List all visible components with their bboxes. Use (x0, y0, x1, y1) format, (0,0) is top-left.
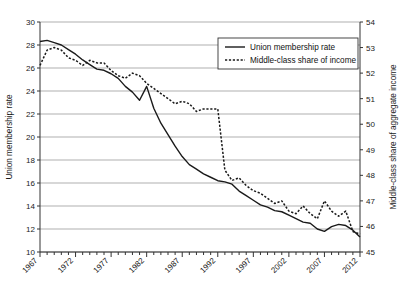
left-axis-tick-label: 16 (26, 179, 35, 188)
x-axis-tick-label: 1977 (92, 256, 111, 275)
left-axis-tick-label: 30 (26, 18, 35, 27)
x-axis-tick-label: 2012 (340, 256, 359, 275)
right-axis-tick-label: 50 (366, 120, 375, 129)
x-axis-tick-label: 1992 (198, 256, 217, 275)
x-axis-tick-label: 2007 (305, 256, 324, 275)
right-axis-tick-label: 54 (366, 18, 375, 27)
x-axis-tick-label: 1987 (163, 256, 182, 275)
dual-axis-line-chart: 1012141618202224262830454647484950515253… (0, 0, 407, 294)
left-axis-tick-label: 22 (26, 110, 35, 119)
left-axis-tick-label: 24 (26, 87, 35, 96)
right-axis-title: Middle-class share of aggregate income (389, 64, 398, 210)
right-axis-tick-label: 49 (366, 146, 375, 155)
left-axis-tick-label: 12 (26, 225, 35, 234)
left-axis-tick-label: 14 (26, 202, 35, 211)
left-axis-title: Union membership rate (5, 94, 14, 180)
legend-label-1: Union membership rate (250, 43, 336, 52)
chart-canvas: 1012141618202224262830454647484950515253… (0, 0, 407, 294)
left-axis-tick-label: 18 (26, 156, 35, 165)
right-axis-tick-label: 48 (366, 171, 375, 180)
right-axis-tick-label: 52 (366, 69, 375, 78)
legend-label-2: Middle-class share of income (250, 56, 356, 65)
right-axis-tick-label: 47 (366, 197, 375, 206)
left-axis-tick-label: 10 (26, 248, 35, 257)
left-axis-tick-label: 26 (26, 64, 35, 73)
right-axis-tick-label: 46 (366, 222, 375, 231)
right-axis-tick-label: 53 (366, 44, 375, 53)
left-axis-tick-label: 28 (26, 41, 35, 50)
x-axis-tick-label: 1972 (56, 256, 75, 275)
x-axis-tick-label: 2002 (269, 256, 288, 275)
x-axis-tick-label: 1982 (127, 256, 146, 275)
x-axis-tick-label: 1967 (20, 256, 39, 275)
left-axis-tick-label: 20 (26, 133, 35, 142)
x-axis-tick-label: 1997 (234, 256, 253, 275)
right-axis-tick-label: 51 (366, 95, 375, 104)
right-axis-tick-label: 45 (366, 248, 375, 257)
